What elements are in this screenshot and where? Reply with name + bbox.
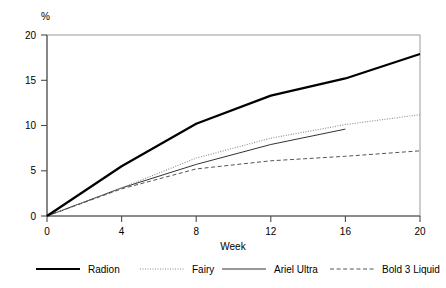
series-line-radion xyxy=(47,54,420,216)
plot-frame xyxy=(47,35,420,216)
x-tick-label-4: 4 xyxy=(119,226,125,237)
x-tick-label-0: 0 xyxy=(44,226,50,237)
y-tick-label-20: 20 xyxy=(25,30,37,41)
y-tick-label-15: 15 xyxy=(25,75,37,86)
series-line-ariel-ultra xyxy=(47,129,345,216)
y-tick-label-10: 10 xyxy=(25,120,37,131)
series-line-bold-3-liquid xyxy=(47,151,420,216)
x-tick-label-20: 20 xyxy=(414,226,426,237)
chart-legend: Radion Fairy Ariel Ultra Bold 3 Liquid xyxy=(36,264,440,275)
legend-label-bold-3-liquid: Bold 3 Liquid xyxy=(382,264,440,275)
legend-item-ariel-ultra[interactable]: Ariel Ultra xyxy=(222,264,318,275)
x-tick-label-16: 16 xyxy=(340,226,352,237)
legend-item-fairy[interactable]: Fairy xyxy=(140,264,214,275)
y-tick-marks xyxy=(41,35,47,216)
y-axis-label: % xyxy=(41,11,50,22)
x-tick-marks xyxy=(47,216,420,222)
x-tick-label-12: 12 xyxy=(265,226,277,237)
chart-canvas: 0 5 10 15 20 % 0 4 8 12 16 20 Week xyxy=(0,0,446,288)
line-chart-figure: 0 5 10 15 20 % 0 4 8 12 16 20 Week xyxy=(0,0,446,288)
series-group xyxy=(47,54,420,216)
y-tick-label-0: 0 xyxy=(30,211,36,222)
legend-label-radion: Radion xyxy=(88,264,120,275)
legend-label-fairy: Fairy xyxy=(192,264,214,275)
x-axis-label: Week xyxy=(220,241,246,252)
legend-item-bold-3-liquid[interactable]: Bold 3 Liquid xyxy=(330,264,440,275)
legend-label-ariel-ultra: Ariel Ultra xyxy=(274,264,318,275)
x-tick-label-8: 8 xyxy=(193,226,199,237)
legend-item-radion[interactable]: Radion xyxy=(36,264,120,275)
y-tick-label-5: 5 xyxy=(30,165,36,176)
